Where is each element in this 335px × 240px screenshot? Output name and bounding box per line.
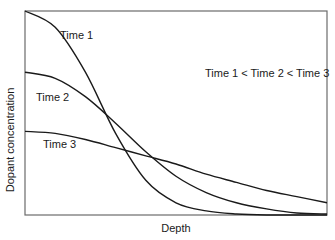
x-axis-label: Depth	[161, 222, 190, 234]
curves	[25, 11, 327, 215]
series-label-time-2: Time 2	[36, 91, 69, 103]
series-label-time-3: Time 3	[43, 138, 76, 150]
plot-frame	[25, 11, 327, 215]
dopant-diffusion-chart: Time 1 Time 2 Time 3 Time 1 < Time 2 < T…	[0, 0, 335, 240]
order-annotation: Time 1 < Time 2 < Time 3	[205, 67, 329, 79]
curve-time-1	[25, 11, 327, 215]
y-axis-label: Dopant concentration	[4, 88, 16, 193]
series-label-time-1: Time 1	[60, 29, 93, 41]
